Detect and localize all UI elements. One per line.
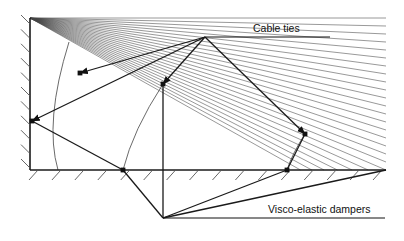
- ground-hatch: [327, 170, 336, 180]
- technical-diagram: Cable ties Visco-elastic dampers: [0, 0, 404, 241]
- wall-hatch: [21, 87, 30, 96]
- damper-marker: [30, 119, 35, 124]
- ground-hatch: [235, 170, 244, 180]
- strut-wall-damper-to-ground-left: [32, 121, 123, 170]
- fan-line: [30, 18, 386, 138]
- ground-support: [29, 170, 386, 180]
- wall-hatch: [21, 101, 30, 110]
- damper-marker: [78, 71, 83, 76]
- damper-marker: [285, 168, 290, 173]
- fan-line: [30, 18, 386, 74]
- fan-line: [30, 18, 386, 114]
- wall-hatch: [21, 58, 30, 67]
- fan-line: [30, 18, 386, 26]
- fan-line: [30, 18, 386, 122]
- wall-hatch: [21, 44, 30, 53]
- ground-hatch: [144, 170, 153, 180]
- fan-line: [30, 18, 337, 170]
- tie-apex-to-damper-right: [205, 37, 305, 134]
- ground-hatch: [75, 170, 84, 180]
- damper-marker: [303, 132, 308, 137]
- ground-hatch: [190, 170, 199, 180]
- fan-line: [30, 18, 312, 170]
- ground-hatch: [98, 170, 107, 180]
- ground-hatch: [304, 170, 313, 180]
- wall-hatch: [21, 116, 30, 125]
- ground-hatch: [167, 170, 176, 180]
- strut-ground-left-to-bottom: [123, 170, 163, 218]
- fan-line: [30, 18, 324, 170]
- wall-hatch: [21, 29, 30, 38]
- fan-line: [30, 18, 386, 50]
- wall-hatch: [21, 159, 30, 168]
- wall-hatch: [21, 73, 30, 82]
- fan-line: [30, 18, 386, 58]
- wall-hatch: [21, 130, 30, 139]
- structural-members: [32, 37, 386, 218]
- fan-line: [30, 18, 386, 130]
- damper-marker: [161, 82, 166, 87]
- fan-line: [30, 18, 386, 90]
- diagram-canvas: Cable ties Visco-elastic dampers: [0, 0, 404, 241]
- ground-hatch: [52, 170, 61, 180]
- fan-line: [30, 18, 386, 34]
- fan-line: [30, 18, 386, 106]
- ground-hatch: [29, 170, 38, 180]
- wall-hatch: [21, 15, 30, 24]
- ground-hatch: [212, 170, 221, 180]
- damper-markers: [30, 71, 308, 173]
- damper-marker: [121, 168, 126, 173]
- wall-hatch: [21, 145, 30, 154]
- arc-group: [53, 42, 305, 170]
- arc-left: [53, 42, 69, 170]
- visco-elastic-dampers-label: Visco-elastic dampers: [268, 203, 371, 215]
- cable-ties-label: Cable ties: [253, 22, 300, 34]
- fan-line: [30, 18, 301, 170]
- ground-hatch: [350, 170, 359, 180]
- arc-mid: [123, 84, 163, 170]
- vertical-wall-support: [21, 15, 30, 170]
